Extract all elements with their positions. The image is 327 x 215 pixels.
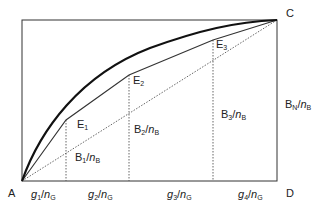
horizontal-label-g4: g4/nG: [238, 189, 263, 201]
vertical-label-b3: B3/nB: [221, 109, 246, 121]
point-label-e2: E2: [133, 75, 144, 87]
horizontal-label-g2: g2/nG: [88, 189, 113, 201]
corner-label-a: A: [8, 188, 15, 199]
vertical-label-b1: B1/nB: [75, 152, 100, 164]
horizontal-label-g1: g1/nG: [31, 189, 56, 201]
vertical-label-bn: BN/nB: [285, 99, 311, 111]
corner-label-d: D: [286, 188, 294, 199]
diagram-canvas: [0, 0, 327, 215]
horizontal-label-g3: g3/nG: [167, 189, 192, 201]
point-label-e1: E1: [77, 119, 88, 131]
point-label-e3: E3: [216, 39, 227, 51]
vertical-label-b2: B2/nB: [134, 124, 159, 136]
equality-diagonal: [22, 20, 277, 181]
corner-label-c: C: [286, 8, 294, 19]
